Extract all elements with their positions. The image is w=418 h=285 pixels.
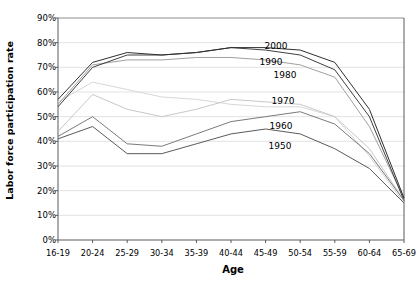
x-tick-label: 30-34 bbox=[150, 248, 174, 258]
x-tick-label: 20-24 bbox=[81, 248, 105, 258]
x-tick-label: 40-44 bbox=[219, 248, 243, 258]
series-label-1980: 1980 bbox=[274, 70, 297, 80]
x-tick-label: 35-39 bbox=[184, 248, 208, 258]
x-tick-label: 55-59 bbox=[323, 248, 347, 258]
series-label-1950: 1950 bbox=[269, 141, 292, 151]
series-label-1970: 1970 bbox=[272, 96, 295, 106]
x-tick-label: 50-54 bbox=[288, 248, 312, 258]
x-tick-label: 60-64 bbox=[357, 248, 381, 258]
chart-container: Labor force participation rate 0%10%20%3… bbox=[0, 0, 418, 285]
x-tick-label: 16-19 bbox=[46, 248, 70, 258]
x-tick-label: 65-69 bbox=[392, 248, 416, 258]
series-label-1960: 1960 bbox=[270, 121, 293, 131]
x-tick-label: 25-29 bbox=[115, 248, 139, 258]
plot-area bbox=[0, 0, 418, 285]
x-axis-title: Age bbox=[58, 264, 408, 275]
series-label-1990: 1990 bbox=[260, 57, 283, 67]
plot-background bbox=[58, 18, 404, 240]
x-tick-label: 45-49 bbox=[254, 248, 278, 258]
series-label-2000: 2000 bbox=[265, 41, 288, 51]
